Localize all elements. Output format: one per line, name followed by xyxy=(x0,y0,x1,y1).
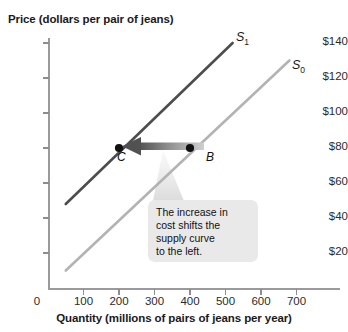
point-label-b: B xyxy=(206,150,214,164)
supply-shift-chart: Price (dollars per pair of jeans) $20$40… xyxy=(0,0,348,332)
point-label-c: C xyxy=(117,150,126,164)
x-axis-title: Quantity (millions of pairs of jeans per… xyxy=(0,312,348,324)
callout-text: The increase in cost shifts the supply c… xyxy=(156,206,258,258)
supply-curve-s1 xyxy=(66,43,233,204)
callout-box: The increase in cost shifts the supply c… xyxy=(148,200,258,262)
plot-area xyxy=(0,0,348,332)
callout-tail xyxy=(152,150,186,206)
curve-label-s0-sub: 0 xyxy=(300,65,305,75)
curve-label-s1: S1 xyxy=(236,30,249,47)
curve-label-s1-sub: 1 xyxy=(244,37,249,47)
data-point-b xyxy=(186,144,194,152)
curve-label-s0: S0 xyxy=(292,58,305,75)
